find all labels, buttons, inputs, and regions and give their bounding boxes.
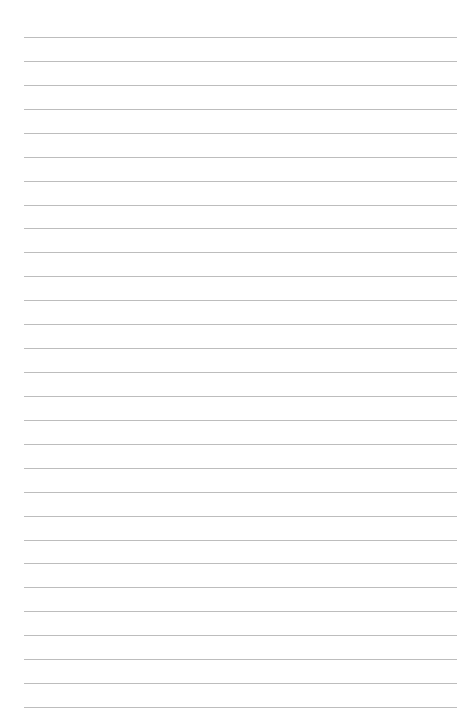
ruled-line [24,396,457,397]
ruled-line [24,324,457,325]
ruled-line [24,516,457,517]
ruled-line [24,492,457,493]
ruled-line [24,85,457,86]
ruled-line [24,611,457,612]
ruled-line [24,635,457,636]
ruled-line [24,228,457,229]
ruled-line [24,444,457,445]
ruled-line [24,707,457,708]
ruled-line [24,181,457,182]
ruled-line [24,37,457,38]
ruled-line [24,659,457,660]
ruled-line [24,540,457,541]
ruled-line [24,157,457,158]
ruled-line [24,61,457,62]
ruled-line [24,133,457,134]
ruled-line [24,420,457,421]
ruled-line [24,205,457,206]
ruled-line [24,683,457,684]
ruled-line [24,468,457,469]
ruled-line [24,252,457,253]
ruled-line [24,109,457,110]
ruled-line [24,587,457,588]
ruled-line [24,563,457,564]
ruled-line [24,348,457,349]
ruled-line [24,372,457,373]
ruled-line [24,300,457,301]
ruled-line [24,276,457,277]
lined-paper-sheet [0,0,459,726]
